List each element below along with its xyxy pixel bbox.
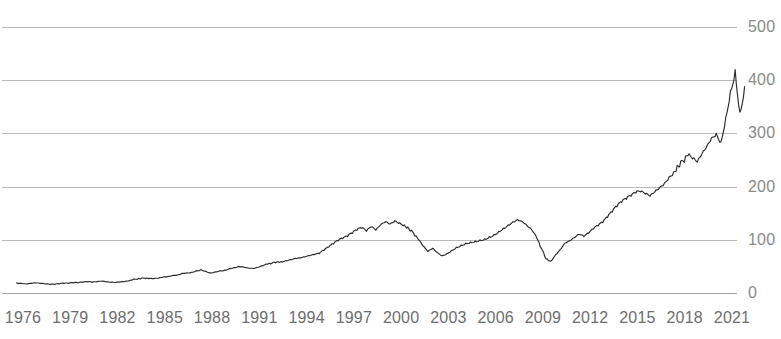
x-tick-label-1997: 1997 — [336, 310, 372, 326]
x-tick-label-1982: 1982 — [99, 310, 135, 326]
x-tick-label-2000: 2000 — [383, 310, 419, 326]
y-tick-label-200: 200 — [748, 179, 775, 195]
plot-area — [0, 0, 781, 339]
series-layer — [0, 0, 781, 339]
y-tick-label-300: 300 — [748, 125, 775, 141]
y-tick-label-0: 0 — [748, 285, 757, 301]
stock-index-line-chart: 0100200300400500 19761979198219851988199… — [0, 0, 781, 339]
x-tick-label-2003: 2003 — [430, 310, 466, 326]
x-tick-label-2012: 2012 — [572, 310, 608, 326]
y-tick-label-500: 500 — [748, 19, 775, 35]
x-tick-label-2006: 2006 — [477, 310, 513, 326]
x-tick-label-1976: 1976 — [5, 310, 41, 326]
x-tick-label-1985: 1985 — [147, 310, 183, 326]
x-tick-label-1991: 1991 — [241, 310, 277, 326]
x-tick-label-2009: 2009 — [525, 310, 561, 326]
x-tick-label-1979: 1979 — [52, 310, 88, 326]
y-tick-label-100: 100 — [748, 232, 775, 248]
x-tick-label-1988: 1988 — [194, 310, 230, 326]
x-tick-label-2018: 2018 — [667, 310, 703, 326]
x-tick-label-1994: 1994 — [288, 310, 324, 326]
x-tick-label-2015: 2015 — [619, 310, 655, 326]
x-tick-label-2021: 2021 — [714, 310, 750, 326]
series-line-index — [17, 70, 745, 285]
y-tick-label-400: 400 — [748, 72, 775, 88]
